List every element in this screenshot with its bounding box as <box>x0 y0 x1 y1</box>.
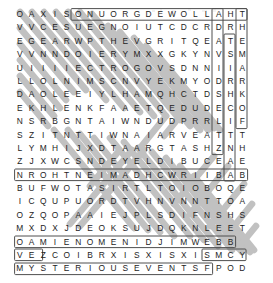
grid-cell[interactable]: I <box>49 62 61 75</box>
grid-cell[interactable]: V <box>143 262 155 275</box>
grid-cell[interactable]: T <box>236 129 248 142</box>
grid-cell[interactable]: A <box>119 102 131 115</box>
grid-cell[interactable]: R <box>201 21 213 34</box>
grid-cell[interactable]: D <box>37 222 49 235</box>
grid-cell[interactable]: H <box>236 142 248 155</box>
grid-cell[interactable]: P <box>61 195 73 208</box>
grid-cell[interactable]: F <box>236 115 248 128</box>
grid-cell[interactable]: Z <box>37 249 49 262</box>
grid-cell[interactable]: N <box>131 115 143 128</box>
grid-cell[interactable]: G <box>143 35 155 48</box>
grid-cell[interactable]: I <box>73 249 85 262</box>
grid-cell[interactable]: A <box>236 195 248 208</box>
grid-cell[interactable]: R <box>73 262 85 275</box>
grid-cell[interactable]: N <box>73 102 85 115</box>
grid-cell[interactable]: D <box>108 195 120 208</box>
grid-cell[interactable]: U <box>154 115 166 128</box>
grid-cell[interactable]: D <box>236 262 248 275</box>
grid-cell[interactable]: T <box>119 195 131 208</box>
grid-cell[interactable]: D <box>213 21 225 34</box>
grid-cell[interactable]: A <box>73 209 85 222</box>
grid-cell[interactable]: U <box>73 21 85 34</box>
grid-cell[interactable]: R <box>201 115 213 128</box>
grid-cell[interactable]: N <box>201 62 213 75</box>
grid-cell[interactable]: E <box>131 102 143 115</box>
grid-cell[interactable]: J <box>119 209 131 222</box>
grid-cell[interactable]: K <box>166 75 178 88</box>
grid-cell[interactable]: I <box>225 62 237 75</box>
grid-cell[interactable]: C <box>37 21 49 34</box>
grid-cell[interactable]: W <box>49 182 61 195</box>
grid-cell[interactable]: I <box>37 129 49 142</box>
grid-cell[interactable]: S <box>166 62 178 75</box>
grid-cell[interactable]: Y <box>190 75 202 88</box>
grid-cell[interactable]: O <box>73 48 85 61</box>
grid-cell[interactable]: M <box>37 236 49 249</box>
grid-cell[interactable]: N <box>14 169 26 182</box>
grid-cell[interactable]: H <box>166 88 178 101</box>
grid-cell[interactable]: T <box>154 182 166 195</box>
grid-cell[interactable]: H <box>108 35 120 48</box>
grid-cell[interactable]: D <box>131 169 143 182</box>
grid-cell[interactable]: U <box>73 195 85 208</box>
grid-cell[interactable]: R <box>154 35 166 48</box>
grid-cell[interactable]: U <box>14 62 26 75</box>
grid-cell[interactable]: O <box>14 8 26 21</box>
grid-cell[interactable]: R <box>26 169 38 182</box>
grid-cell[interactable]: O <box>143 62 155 75</box>
grid-cell[interactable]: H <box>49 169 61 182</box>
grid-cell[interactable]: I <box>119 249 131 262</box>
grid-cell[interactable]: D <box>178 102 190 115</box>
grid-cell[interactable]: N <box>119 129 131 142</box>
grid-cell[interactable]: N <box>190 62 202 75</box>
grid-cell[interactable]: G <box>61 115 73 128</box>
grid-cell[interactable]: Y <box>26 262 38 275</box>
grid-cell[interactable]: S <box>154 209 166 222</box>
grid-cell[interactable]: Q <box>37 195 49 208</box>
grid-cell[interactable]: M <box>14 262 26 275</box>
grid-cell[interactable]: Z <box>26 129 38 142</box>
grid-cell[interactable]: B <box>236 169 248 182</box>
grid-cell[interactable]: D <box>201 102 213 115</box>
grid-cell[interactable]: T <box>84 115 96 128</box>
grid-cell[interactable]: H <box>49 142 61 155</box>
grid-cell[interactable]: Y <box>96 88 108 101</box>
grid-cell[interactable]: V <box>178 129 190 142</box>
grid-cell[interactable]: O <box>96 262 108 275</box>
grid-cell[interactable]: S <box>190 142 202 155</box>
grid-cell[interactable]: S <box>61 8 73 21</box>
grid-cell[interactable]: D <box>96 142 108 155</box>
grid-cell[interactable]: D <box>96 155 108 168</box>
grid-cell[interactable]: X <box>37 155 49 168</box>
grid-cell[interactable]: X <box>37 8 49 21</box>
grid-cell[interactable]: I <box>166 35 178 48</box>
grid-cell[interactable]: T <box>96 35 108 48</box>
grid-cell[interactable]: D <box>73 222 85 235</box>
grid-cell[interactable]: H <box>225 8 237 21</box>
grid-cell[interactable]: S <box>201 249 213 262</box>
grid-cell[interactable]: R <box>96 195 108 208</box>
grid-cell[interactable]: S <box>119 262 131 275</box>
grid-cell[interactable]: M <box>213 249 225 262</box>
grid-cell[interactable]: R <box>225 75 237 88</box>
grid-cell[interactable]: B <box>201 182 213 195</box>
grid-cell[interactable]: A <box>225 169 237 182</box>
grid-cell[interactable]: E <box>166 102 178 115</box>
letter-grid[interactable]: OAXISONUORGDEWOLLAHTVVCESUEGNOIUTCDCRDRH… <box>14 8 260 276</box>
grid-cell[interactable]: D <box>14 88 26 101</box>
grid-cell[interactable]: A <box>225 155 237 168</box>
grid-cell[interactable]: C <box>190 21 202 34</box>
grid-cell[interactable]: E <box>14 35 26 48</box>
grid-cell[interactable]: L <box>14 75 26 88</box>
grid-cell[interactable]: W <box>73 35 85 48</box>
grid-cell[interactable]: N <box>84 155 96 168</box>
grid-cell[interactable]: E <box>61 236 73 249</box>
grid-cell[interactable]: I <box>96 169 108 182</box>
grid-cell[interactable]: A <box>108 102 120 115</box>
grid-cell[interactable]: Q <box>190 35 202 48</box>
grid-cell[interactable]: V <box>213 48 225 61</box>
grid-cell[interactable]: T <box>190 88 202 101</box>
grid-cell[interactable]: O <box>178 8 190 21</box>
grid-cell[interactable]: H <box>225 88 237 101</box>
grid-cell[interactable]: L <box>190 8 202 21</box>
